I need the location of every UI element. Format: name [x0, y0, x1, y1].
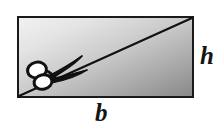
- figure-container: h b: [0, 0, 222, 130]
- base-label: b: [95, 100, 108, 125]
- scissors-pivot-icon: [51, 75, 54, 78]
- geometry-figure: [0, 0, 222, 130]
- height-label: h: [200, 43, 214, 68]
